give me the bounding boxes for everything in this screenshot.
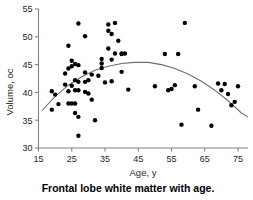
data-point	[229, 103, 233, 107]
figure-container: Volume, oc 303540455055 15253545556575 A…	[0, 0, 253, 200]
data-point	[70, 84, 74, 88]
data-point	[76, 21, 80, 25]
data-point	[70, 59, 74, 63]
data-point	[50, 107, 54, 111]
data-point	[56, 102, 60, 106]
data-point	[183, 21, 187, 25]
data-point	[76, 80, 80, 84]
data-point	[106, 46, 110, 50]
x-tick-label: 55	[167, 154, 177, 164]
data-point	[116, 38, 120, 42]
data-point	[86, 91, 90, 95]
data-point	[236, 84, 240, 88]
data-point	[66, 89, 70, 93]
y-tick-label: 40	[22, 88, 32, 98]
x-axis-title: Age, y	[130, 167, 157, 178]
data-point	[233, 100, 237, 104]
data-point	[106, 28, 110, 32]
data-point	[109, 79, 113, 83]
data-point	[76, 63, 80, 67]
data-point	[223, 82, 227, 86]
data-point	[76, 88, 80, 92]
data-point	[226, 92, 230, 96]
y-tick-group: 303540455055	[22, 4, 38, 153]
x-tick-label: 65	[200, 154, 210, 164]
data-point	[109, 57, 113, 61]
data-point	[83, 34, 87, 38]
data-point	[99, 57, 103, 61]
x-tick-label: 25	[67, 154, 77, 164]
data-point	[76, 115, 80, 119]
data-point	[123, 51, 127, 55]
data-point	[63, 82, 67, 86]
data-point	[169, 87, 173, 91]
scatter-plot: Volume, oc 303540455055 15253545556575 A…	[0, 0, 253, 200]
data-point	[50, 89, 54, 93]
y-tick-label: 55	[22, 4, 32, 14]
data-point	[193, 84, 197, 88]
data-point	[153, 84, 157, 88]
data-point	[99, 66, 103, 70]
data-point	[179, 122, 183, 126]
data-point	[113, 51, 117, 55]
data-point	[99, 61, 103, 65]
data-point	[106, 22, 110, 26]
y-tick-label: 45	[22, 60, 32, 70]
data-point	[53, 92, 57, 96]
y-tick-label: 50	[22, 32, 32, 42]
data-point	[219, 88, 223, 92]
data-point	[96, 74, 100, 78]
y-tick-label: 35	[22, 116, 32, 126]
x-tick-label: 15	[33, 154, 43, 164]
data-point	[90, 72, 94, 76]
data-point	[103, 80, 107, 84]
data-point	[90, 97, 94, 101]
data-point	[196, 107, 200, 111]
data-point	[113, 21, 117, 25]
data-point	[63, 71, 67, 75]
data-point	[126, 87, 130, 91]
x-tick-group: 15253545556575	[33, 148, 243, 164]
figure-caption: Frontal lobe white matter with age.	[42, 182, 215, 194]
data-point	[93, 118, 97, 122]
data-point	[83, 70, 87, 74]
y-axis-title: Volume, oc	[4, 68, 15, 115]
data-point	[163, 52, 167, 56]
fit-curve	[42, 62, 248, 116]
data-point	[176, 52, 180, 56]
x-tick-label: 45	[133, 154, 143, 164]
data-point	[73, 101, 77, 105]
data-point	[76, 134, 80, 138]
data-point	[173, 83, 177, 87]
data-point	[73, 111, 77, 115]
data-point	[86, 78, 90, 82]
y-tick-label: 30	[22, 143, 32, 153]
data-point	[209, 124, 213, 128]
x-tick-label: 75	[233, 154, 243, 164]
data-point	[216, 81, 220, 85]
data-point	[109, 32, 113, 36]
data-point	[66, 44, 70, 48]
data-point	[119, 70, 123, 74]
x-tick-label: 35	[100, 154, 110, 164]
